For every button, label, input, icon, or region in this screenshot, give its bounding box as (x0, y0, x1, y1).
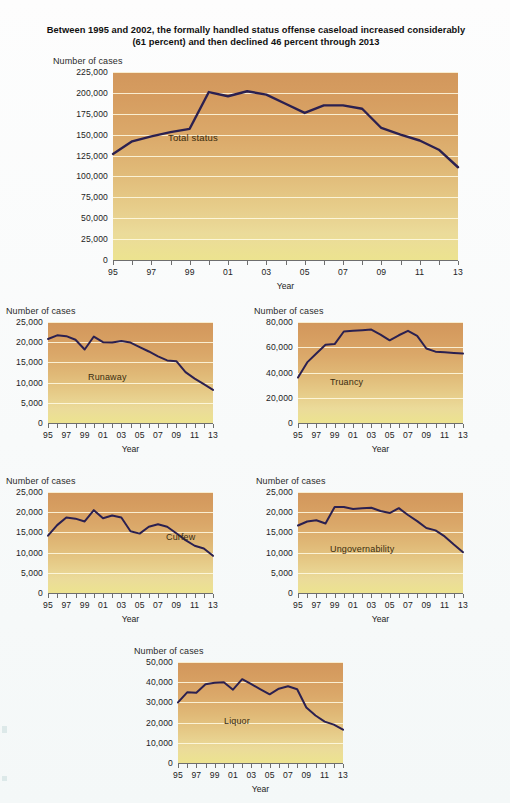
x-tick (316, 424, 317, 428)
gridline (113, 156, 458, 157)
y-tick-label: 0 (4, 418, 43, 428)
x-tick-label: 99 (80, 430, 90, 440)
plot-area (113, 72, 458, 260)
x-tick (381, 594, 382, 598)
x-tick (326, 424, 327, 428)
plot-area (178, 662, 343, 763)
x-tick (233, 764, 234, 768)
y-tick-label: 20,000 (252, 393, 293, 403)
gridline (113, 176, 458, 177)
y-tick-label: 25,000 (4, 317, 43, 327)
x-tick-label: 07 (403, 430, 413, 440)
x-tick (298, 424, 299, 428)
y-tick-label: 175,000 (51, 109, 108, 119)
x-tick (140, 424, 141, 428)
x-tick (195, 594, 196, 598)
gridline (48, 383, 213, 384)
x-tick-label: 03 (366, 600, 376, 610)
x-tick-label: 99 (330, 430, 340, 440)
x-tick (426, 424, 427, 428)
x-tick (445, 424, 446, 428)
y-tick-label: 25,000 (51, 234, 108, 244)
gridline (178, 723, 343, 724)
x-tick-label: 09 (376, 267, 386, 277)
x-tick (307, 424, 308, 428)
x-tick (140, 594, 141, 598)
x-tick-label: 01 (348, 430, 358, 440)
x-tick-label: 07 (153, 430, 163, 440)
gridline (113, 239, 458, 240)
gridline (298, 373, 463, 374)
x-axis-line (48, 593, 213, 594)
x-tick (213, 424, 214, 428)
x-tick (279, 764, 280, 768)
figure-page: Between 1995 and 2002, the formally hand… (0, 0, 510, 803)
y-tick-label: 0 (254, 588, 293, 598)
x-tick (353, 594, 354, 598)
gridline (298, 532, 463, 533)
y-axis-title: Number of cases (6, 306, 76, 316)
x-tick (251, 764, 252, 768)
gridline (298, 492, 463, 493)
data-series-truancy (298, 322, 463, 423)
series-polyline (298, 330, 463, 378)
x-tick (57, 594, 58, 598)
gridline (298, 573, 463, 574)
series-polyline (113, 91, 458, 167)
x-axis-title: Year (252, 784, 269, 794)
x-tick (48, 424, 49, 428)
x-tick (286, 261, 287, 265)
gridline (298, 398, 463, 399)
x-tick (343, 764, 344, 768)
gridline (178, 702, 343, 703)
data-series-ungovernability (298, 492, 463, 593)
y-axis-title: Number of cases (53, 56, 123, 66)
x-tick (103, 594, 104, 598)
x-tick-label: 05 (300, 267, 310, 277)
gridline (48, 573, 213, 574)
series-polyline (178, 679, 343, 730)
x-tick-label: 09 (421, 600, 431, 610)
x-tick (76, 594, 77, 598)
gridline (178, 662, 343, 663)
x-tick (66, 424, 67, 428)
x-tick-label: 97 (311, 600, 321, 610)
x-tick (178, 764, 179, 768)
gridline (48, 342, 213, 343)
y-tick-label: 20,000 (4, 337, 43, 347)
x-tick (445, 594, 446, 598)
x-axis-title: Year (122, 614, 139, 624)
chart-curfew: Number of cases05,00010,00015,00020,0002… (0, 0, 510, 803)
y-tick-label: 0 (4, 588, 43, 598)
x-tick (94, 424, 95, 428)
x-tick (131, 594, 132, 598)
x-tick-label: 09 (301, 770, 311, 780)
x-tick (371, 594, 372, 598)
gridline (113, 197, 458, 198)
gridline (298, 322, 463, 323)
y-tick-label: 40,000 (252, 368, 293, 378)
x-tick-label: 01 (98, 430, 108, 440)
y-tick-label: 225,000 (51, 67, 108, 77)
x-tick-label: 05 (265, 770, 275, 780)
x-tick-label: 05 (135, 600, 145, 610)
x-tick-label: 95 (108, 267, 118, 277)
y-tick-label: 75,000 (51, 192, 108, 202)
y-tick-label: 25,000 (254, 487, 293, 497)
x-tick (206, 764, 207, 768)
x-tick-label: 03 (116, 600, 126, 610)
x-tick (436, 594, 437, 598)
gridline (48, 403, 213, 404)
x-tick (326, 594, 327, 598)
chart-truancy: Number of cases020,00040,00060,00080,000… (0, 0, 510, 803)
x-tick (190, 261, 191, 265)
x-tick (242, 764, 243, 768)
y-tick-label: 50,000 (132, 657, 173, 667)
data-series-liquor (178, 662, 343, 763)
x-tick-label: 11 (415, 267, 424, 277)
x-tick (399, 594, 400, 598)
x-tick (215, 764, 216, 768)
x-tick (228, 261, 229, 265)
x-tick (390, 594, 391, 598)
x-tick (167, 424, 168, 428)
